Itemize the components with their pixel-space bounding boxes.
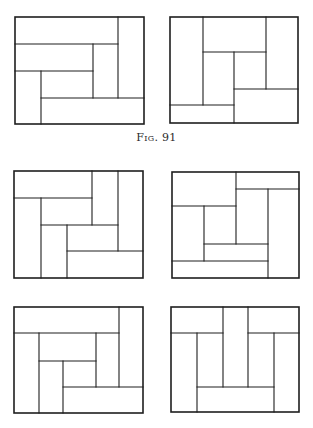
rectangle-dissection-diagram (0, 0, 313, 428)
outer-rectangle (14, 307, 143, 413)
figure-panel-bottom-left (14, 307, 143, 413)
figure-panel-middle-left (14, 171, 143, 278)
figure-panel-top-left (15, 17, 144, 124)
figure-caption-prefix: Fig. (136, 131, 158, 144)
figure-panel-bottom-right (171, 307, 299, 412)
figure-panel-middle-right (172, 172, 299, 278)
outer-rectangle (171, 307, 299, 412)
figure-caption-number: 91 (162, 131, 177, 144)
figure-panel-top-right (170, 17, 298, 123)
figure-caption: Fig. 91 (0, 131, 313, 144)
